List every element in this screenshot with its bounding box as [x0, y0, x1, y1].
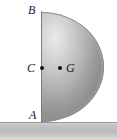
point-marker-g — [58, 66, 62, 70]
label-b: B — [28, 4, 35, 16]
label-g: G — [66, 62, 75, 74]
point-marker-c — [40, 66, 44, 70]
ground-surface — [0, 122, 117, 139]
label-a: A — [29, 109, 36, 121]
ground-contact-line — [0, 122, 117, 123]
label-c: C — [27, 62, 35, 74]
physics-diagram: B C G A — [0, 0, 117, 139]
